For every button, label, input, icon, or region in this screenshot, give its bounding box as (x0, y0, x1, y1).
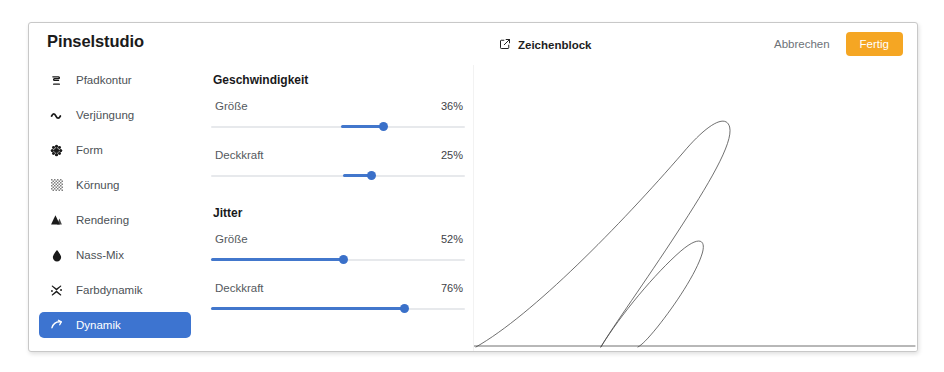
sidebar-item-rendering[interactable]: Rendering (39, 207, 191, 233)
sidebar: Pfadkontur Verjüngung (29, 65, 201, 351)
header-actions: Abbrechen Fertig (772, 32, 903, 56)
sidebar-item-koernung[interactable]: Körnung (39, 172, 191, 198)
document-chip[interactable]: Zeichenblock (499, 36, 592, 54)
sidebar-item-label: Form (76, 144, 103, 156)
slider-geschwindigkeit-groesse[interactable]: Größe 36% (211, 100, 465, 134)
curve-arrow-icon (49, 318, 64, 333)
slider-track-wrap[interactable] (211, 120, 465, 134)
slider-value: 52% (441, 233, 463, 245)
slider-fill (211, 307, 404, 310)
group-title-geschwindigkeit: Geschwindigkeit (213, 73, 465, 87)
sidebar-item-farbdynamik[interactable]: Farbdynamik (39, 277, 191, 303)
slider-header: Größe 52% (211, 233, 465, 245)
slider-label: Größe (215, 233, 248, 245)
slider-thumb[interactable] (400, 304, 409, 313)
path-contour-icon (49, 73, 64, 88)
slider-value: 36% (441, 100, 463, 112)
slider-thumb[interactable] (367, 171, 376, 180)
sidebar-item-label: Rendering (76, 214, 129, 226)
grain-icon (49, 178, 64, 193)
slider-label: Größe (215, 100, 248, 112)
slider-header: Größe 36% (211, 100, 465, 112)
sidebar-item-label: Farbdynamik (76, 284, 142, 296)
brush-stroke-artwork (474, 65, 917, 351)
slider-value: 25% (441, 149, 463, 161)
mountains-icon (49, 213, 64, 228)
splatter-icon (49, 283, 64, 298)
app-title: Pinselstudio (47, 32, 144, 51)
slider-label: Deckkraft (215, 282, 264, 294)
slider-track (211, 175, 465, 177)
window-body: Pfadkontur Verjüngung (29, 65, 917, 351)
group-title-jitter: Jitter (213, 206, 465, 220)
sidebar-item-dynamik[interactable]: Dynamik (39, 312, 191, 338)
document-name: Zeichenblock (518, 39, 592, 51)
controls-panel: Geschwindigkeit Größe 36% Deckkraft 25% (201, 65, 473, 351)
slider-fill (211, 258, 343, 261)
confirm-button[interactable]: Fertig (846, 32, 903, 56)
sidebar-item-verjuengung[interactable]: Verjüngung (39, 102, 191, 128)
slider-thumb[interactable] (379, 122, 388, 131)
app-window: Pinselstudio Zeichenblock Abbrechen Fert… (28, 22, 918, 352)
slider-geschwindigkeit-deckkraft[interactable]: Deckkraft 25% (211, 149, 465, 183)
sidebar-item-label: Dynamik (76, 319, 121, 331)
sidebar-item-label: Nass-Mix (76, 249, 124, 261)
slider-track-wrap[interactable] (211, 253, 465, 267)
sidebar-item-form[interactable]: Form (39, 137, 191, 163)
taper-wave-icon (49, 108, 64, 123)
shape-flower-icon (49, 143, 64, 158)
top-bar: Pinselstudio Zeichenblock Abbrechen Fert… (29, 23, 917, 65)
slider-jitter-deckkraft[interactable]: Deckkraft 76% (211, 282, 465, 316)
slider-fill (341, 125, 384, 128)
water-drop-icon (49, 248, 64, 263)
sidebar-item-pfadkontur[interactable]: Pfadkontur (39, 67, 191, 93)
slider-label: Deckkraft (215, 149, 264, 161)
slider-track (211, 126, 465, 128)
sidebar-item-label: Pfadkontur (76, 74, 132, 86)
slider-thumb[interactable] (339, 255, 348, 264)
slider-track-wrap[interactable] (211, 302, 465, 316)
slider-value: 76% (441, 282, 463, 294)
cancel-button[interactable]: Abbrechen (772, 35, 832, 53)
slider-header: Deckkraft 76% (211, 282, 465, 294)
slider-jitter-groesse[interactable]: Größe 52% (211, 233, 465, 267)
external-link-icon (499, 36, 511, 54)
sidebar-item-label: Verjüngung (76, 109, 134, 121)
slider-track-wrap[interactable] (211, 169, 465, 183)
sidebar-item-nass-mix[interactable]: Nass-Mix (39, 242, 191, 268)
sidebar-item-label: Körnung (76, 179, 119, 191)
drawing-canvas[interactable] (473, 65, 917, 351)
slider-header: Deckkraft 25% (211, 149, 465, 161)
